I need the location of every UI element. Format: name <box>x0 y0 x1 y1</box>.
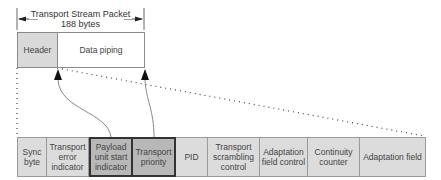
field-pid: PID <box>176 137 208 177</box>
field-continuity-counter: Continuity counter <box>308 137 360 177</box>
field-payload-unit-start-indicator: Payload unit start indicator <box>89 137 133 177</box>
field-label: Transport error indicator <box>48 142 88 172</box>
field-label: Continuity counter <box>311 147 357 167</box>
field-label: Transport scrambling control <box>210 142 258 172</box>
packet-payload-box: Data piping <box>58 32 145 68</box>
packet-header-box: Header <box>17 32 58 68</box>
arrow-up-icon <box>54 69 62 80</box>
packet-payload-label: Data piping <box>79 45 122 55</box>
field-transport-priority: Transport priority <box>131 137 176 177</box>
packet-header-label: Header <box>24 45 52 55</box>
field-sync-byte: Sync byte <box>17 137 47 177</box>
field-label: Transport priority <box>134 147 174 167</box>
arrow-up-icon <box>141 69 149 80</box>
packet-size: 188 bytes <box>17 19 144 29</box>
field-label: PID <box>184 152 198 162</box>
field-adaptation-field: Adaptation field <box>360 137 426 177</box>
field-label: Payload unit start indicator <box>91 142 131 172</box>
field-adaptation-field-control: Adaptation field control <box>260 137 308 177</box>
field-label: Adaptation field control <box>262 147 306 167</box>
field-transport-error-indicator: Transport error indicator <box>47 137 89 177</box>
field-transport-scrambling-control: Transport scrambling control <box>208 137 260 177</box>
field-label: Sync byte <box>20 147 44 167</box>
packet-title: Transport Stream Packet <box>29 9 133 19</box>
packet-size-label: Transport Stream Packet 188 bytes <box>17 9 144 29</box>
field-label: Adaptation field <box>363 152 422 162</box>
